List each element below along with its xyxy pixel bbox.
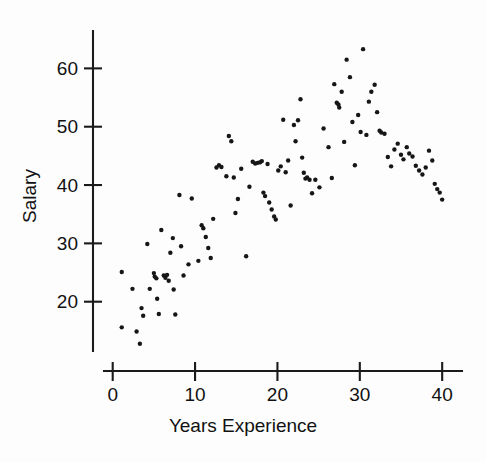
data-point[interactable]: [204, 235, 208, 239]
data-point[interactable]: [433, 182, 437, 186]
data-point[interactable]: [364, 133, 368, 137]
data-point[interactable]: [307, 178, 311, 182]
data-point[interactable]: [171, 236, 175, 240]
data-point[interactable]: [342, 140, 346, 144]
data-point[interactable]: [219, 165, 223, 169]
data-point[interactable]: [186, 262, 190, 266]
data-point[interactable]: [239, 167, 243, 171]
data-point[interactable]: [358, 130, 362, 134]
data-point[interactable]: [159, 228, 163, 232]
data-point[interactable]: [405, 145, 409, 149]
data-point[interactable]: [138, 342, 142, 346]
data-point[interactable]: [269, 207, 273, 211]
data-point[interactable]: [167, 279, 171, 283]
data-point[interactable]: [139, 306, 143, 310]
data-point[interactable]: [339, 90, 343, 94]
data-point[interactable]: [292, 123, 296, 127]
data-point[interactable]: [298, 97, 302, 101]
data-point[interactable]: [201, 226, 205, 230]
data-point[interactable]: [369, 90, 373, 94]
data-point[interactable]: [279, 164, 283, 168]
data-point[interactable]: [130, 287, 134, 291]
data-point[interactable]: [414, 164, 418, 168]
data-point[interactable]: [302, 171, 306, 175]
data-point[interactable]: [179, 244, 183, 248]
data-point[interactable]: [229, 139, 233, 143]
data-point[interactable]: [211, 217, 215, 221]
data-point[interactable]: [344, 57, 348, 61]
data-point[interactable]: [401, 157, 405, 161]
data-point[interactable]: [263, 194, 267, 198]
data-point[interactable]: [145, 242, 149, 246]
data-point[interactable]: [417, 168, 421, 172]
data-point[interactable]: [141, 314, 145, 318]
data-point[interactable]: [276, 168, 280, 172]
data-point[interactable]: [317, 185, 321, 189]
data-point[interactable]: [247, 185, 251, 189]
data-point[interactable]: [420, 172, 424, 176]
data-point[interactable]: [353, 163, 357, 167]
data-point[interactable]: [232, 175, 236, 179]
data-point-layer[interactable]: [120, 47, 445, 346]
data-point[interactable]: [424, 165, 428, 169]
data-point[interactable]: [157, 312, 161, 316]
data-point[interactable]: [382, 132, 386, 136]
data-point[interactable]: [190, 196, 194, 200]
data-point[interactable]: [120, 325, 124, 329]
data-point[interactable]: [281, 118, 285, 122]
data-point[interactable]: [177, 193, 181, 197]
data-point[interactable]: [206, 246, 210, 250]
data-point[interactable]: [330, 176, 334, 180]
data-point[interactable]: [168, 251, 172, 255]
data-point[interactable]: [300, 155, 304, 159]
data-point[interactable]: [293, 139, 297, 143]
data-point[interactable]: [283, 170, 287, 174]
data-point[interactable]: [265, 162, 269, 166]
data-point[interactable]: [286, 158, 290, 162]
data-point[interactable]: [348, 75, 352, 79]
data-point[interactable]: [233, 211, 237, 215]
data-point[interactable]: [236, 197, 240, 201]
data-point[interactable]: [337, 105, 341, 109]
data-point[interactable]: [321, 126, 325, 130]
data-point[interactable]: [392, 147, 396, 151]
data-point[interactable]: [173, 312, 177, 316]
data-point[interactable]: [367, 99, 371, 103]
data-point[interactable]: [181, 273, 185, 277]
data-point[interactable]: [171, 287, 175, 291]
data-point[interactable]: [288, 203, 292, 207]
data-point[interactable]: [372, 83, 376, 87]
data-point[interactable]: [350, 120, 354, 124]
data-point[interactable]: [396, 141, 400, 145]
data-point[interactable]: [165, 273, 169, 277]
data-point[interactable]: [399, 153, 403, 157]
data-point[interactable]: [260, 159, 264, 163]
data-point[interactable]: [120, 270, 124, 274]
data-point[interactable]: [244, 254, 248, 258]
data-point[interactable]: [267, 200, 271, 204]
data-point[interactable]: [134, 329, 138, 333]
data-point[interactable]: [196, 259, 200, 263]
data-point[interactable]: [154, 276, 158, 280]
data-point[interactable]: [410, 154, 414, 158]
data-point[interactable]: [440, 197, 444, 201]
data-point[interactable]: [227, 134, 231, 138]
data-point[interactable]: [361, 47, 365, 51]
data-point[interactable]: [313, 178, 317, 182]
data-point[interactable]: [155, 297, 159, 301]
data-point[interactable]: [296, 118, 300, 122]
data-point[interactable]: [430, 158, 434, 162]
data-point[interactable]: [148, 287, 152, 291]
data-point[interactable]: [274, 217, 278, 221]
data-point[interactable]: [356, 113, 360, 117]
data-point[interactable]: [375, 110, 379, 114]
data-point[interactable]: [326, 145, 330, 149]
data-point[interactable]: [389, 164, 393, 168]
data-point[interactable]: [438, 190, 442, 194]
data-point[interactable]: [427, 148, 431, 152]
data-point[interactable]: [310, 191, 314, 195]
data-point[interactable]: [332, 82, 336, 86]
data-point[interactable]: [386, 155, 390, 159]
data-point[interactable]: [209, 256, 213, 260]
data-point[interactable]: [224, 174, 228, 178]
